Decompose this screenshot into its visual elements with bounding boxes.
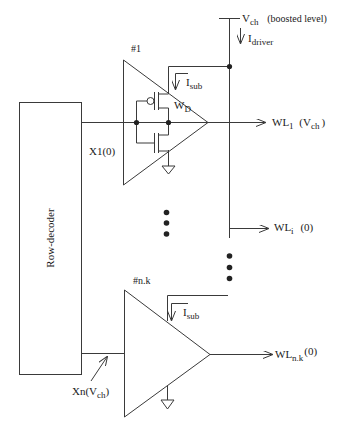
trunk-junction-dot bbox=[227, 64, 232, 69]
driver-nk-ground-icon bbox=[161, 400, 174, 409]
ellipsis-dot bbox=[164, 231, 170, 237]
ellipsis-dot bbox=[227, 253, 233, 259]
supply-label: Vch (boosted level) bbox=[242, 13, 327, 24]
ellipsis-dot bbox=[227, 276, 233, 282]
device-wd-label: WD bbox=[174, 100, 191, 111]
row-decoder-label: Row-decoder bbox=[44, 208, 56, 267]
driver-1-id: #1 bbox=[131, 44, 141, 54]
x1-input-label: X1(0) bbox=[89, 146, 115, 157]
input-junction-dot bbox=[134, 120, 139, 125]
driver-nk-isub-label: Isub bbox=[183, 307, 199, 318]
ellipsis-dot bbox=[227, 265, 233, 271]
driver-current-label: Idriver bbox=[248, 33, 273, 44]
wli-output-label: WLi (0) bbox=[274, 222, 313, 233]
ellipsis-dot bbox=[164, 220, 170, 226]
driver-nk-id: #n.k bbox=[133, 276, 151, 286]
ellipsis-dot bbox=[164, 210, 170, 216]
driver-1-ground-icon bbox=[162, 166, 175, 174]
wl1-output-label: WL1 (Vch) bbox=[272, 117, 325, 128]
wlnk-output-label: WLn.k(0) bbox=[275, 349, 317, 360]
output-junction-dot bbox=[166, 120, 171, 125]
xn-pointer-arrow bbox=[91, 357, 107, 381]
pmos-gate-bubble bbox=[147, 98, 154, 105]
xn-input-label: Xn(Vch) bbox=[72, 386, 109, 397]
driver-1-isub-label: Isub bbox=[186, 77, 202, 88]
